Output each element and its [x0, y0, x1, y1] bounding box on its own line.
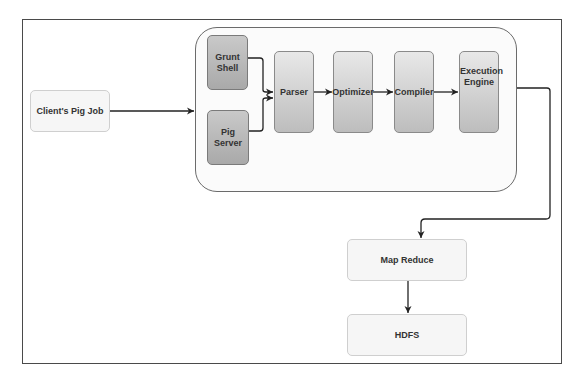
hdfs-label: HDFS — [395, 330, 420, 341]
pig-server-node[interactable]: Pig Server — [207, 110, 249, 165]
pig-server-label: Pig Server — [213, 127, 243, 149]
execution-engine-label: Execution Engine — [460, 66, 498, 88]
hdfs-node[interactable]: HDFS — [347, 314, 467, 356]
client-pig-job-node[interactable]: Client's Pig Job — [30, 90, 110, 132]
map-reduce-node[interactable]: Map Reduce — [347, 239, 467, 281]
grunt-shell-node[interactable]: Grunt Shell — [207, 35, 248, 90]
grunt-shell-label: Grunt Shell — [213, 52, 243, 74]
optimizer-node[interactable]: Optimizer — [333, 51, 373, 133]
client-pig-job-label: Client's Pig Job — [36, 106, 103, 117]
parser-node[interactable]: Parser — [274, 51, 314, 133]
map-reduce-label: Map Reduce — [380, 255, 433, 266]
compiler-node[interactable]: Compiler — [394, 51, 434, 133]
parser-label: Parser — [280, 87, 308, 98]
compiler-label: Compiler — [395, 87, 434, 98]
execution-engine-node[interactable]: Execution Engine — [459, 51, 499, 133]
optimizer-label: Optimizer — [332, 87, 374, 98]
